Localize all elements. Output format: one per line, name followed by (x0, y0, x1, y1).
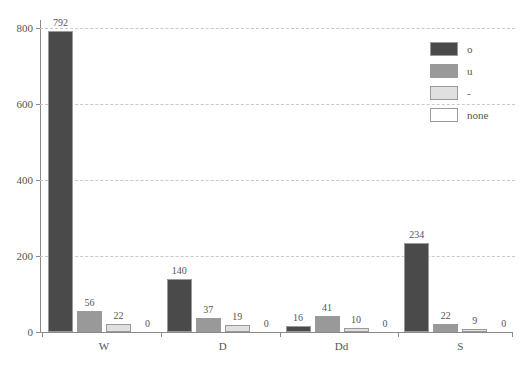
y-axis-tick-labels: 0200400600800 (0, 20, 33, 332)
bar-value-label: 22 (441, 310, 451, 321)
bar-value-label: 19 (232, 311, 242, 322)
bar-value-label: 9 (472, 315, 477, 326)
legend-item[interactable]: u (430, 60, 526, 82)
bar (167, 279, 192, 332)
y-axis-tick-label: 200 (17, 250, 34, 262)
gridline (40, 180, 515, 181)
legend-swatch (430, 64, 458, 78)
bar-value-label: 16 (293, 312, 303, 323)
legend-item[interactable]: - (430, 82, 526, 104)
legend: ou-none (430, 38, 526, 126)
legend-swatch (430, 86, 458, 100)
bar-value-label: 22 (114, 310, 124, 321)
x-axis-group-label: D (219, 340, 227, 352)
legend-swatch (430, 42, 458, 56)
x-axis-group-label: S (457, 340, 463, 352)
legend-label: o (467, 44, 473, 55)
bar-chart: 0200400600800 79256220140371901641100234… (0, 0, 531, 370)
y-axis-tick-label: 800 (17, 22, 34, 34)
legend-item[interactable]: o (430, 38, 526, 60)
bar-value-label: 234 (409, 229, 424, 240)
x-axis-tick-mark (161, 332, 162, 337)
bar-value-label: 0 (501, 318, 506, 329)
gridline (40, 256, 515, 257)
bar (404, 243, 429, 332)
x-axis-tick-mark (512, 332, 513, 337)
legend-label: none (467, 110, 488, 121)
x-axis-tick-mark (42, 332, 43, 337)
y-axis-tick-label: 600 (17, 98, 34, 110)
bar (433, 324, 458, 332)
bar-value-label: 56 (85, 297, 95, 308)
bar (315, 316, 340, 332)
bar-value-label: 140 (172, 265, 187, 276)
legend-label: u (467, 66, 473, 77)
y-axis-tick-label: 400 (17, 174, 34, 186)
bar-value-label: 0 (383, 318, 388, 329)
bar-value-label: 792 (53, 17, 68, 28)
x-axis-tick-mark (398, 332, 399, 337)
bar-value-label: 0 (264, 318, 269, 329)
x-axis-tick-mark (280, 332, 281, 337)
bar-value-label: 41 (322, 302, 332, 313)
bar (106, 324, 131, 332)
x-axis-group-label: W (99, 340, 109, 352)
x-axis-group-label: Dd (335, 340, 348, 352)
bar-value-label: 10 (351, 314, 361, 325)
bar-value-label: 37 (203, 304, 213, 315)
bar (196, 318, 221, 332)
y-axis-tick-label: 0 (28, 326, 34, 338)
bar (225, 325, 250, 332)
gridline (40, 28, 515, 29)
legend-item[interactable]: none (430, 104, 526, 126)
bar (77, 311, 102, 332)
legend-label: - (467, 88, 471, 99)
bar (48, 31, 73, 332)
x-axis-line (40, 332, 513, 333)
bar-value-label: 0 (145, 318, 150, 329)
legend-swatch (430, 108, 458, 122)
